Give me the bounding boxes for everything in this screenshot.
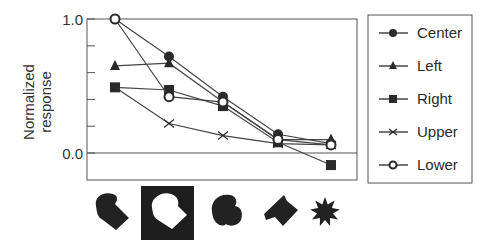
legend-label: Upper <box>417 123 458 140</box>
legend-label: Lower <box>417 156 458 173</box>
filled-circle-marker-icon <box>389 29 397 37</box>
filled-square-marker-icon <box>326 160 336 170</box>
filled-triangle-marker-icon <box>110 60 120 70</box>
open-circle-marker-icon <box>165 92 174 101</box>
wedge-shape-4-icon <box>264 195 298 226</box>
legend-label: Center <box>417 24 462 41</box>
open-circle-marker-icon <box>327 140 336 149</box>
open-circle-marker-icon <box>274 135 283 144</box>
x-marker-icon <box>164 120 174 128</box>
blob-shape-2-highlighted-icon <box>141 186 194 240</box>
y-tick-label-0: 0.0 <box>62 145 83 162</box>
legend-label: Right <box>417 90 453 107</box>
filled-square-marker-icon <box>389 95 397 103</box>
y-ticks <box>87 19 95 153</box>
blob-shape-1-icon <box>96 193 129 230</box>
series-layer <box>110 14 336 170</box>
legend: CenterLeftRightUpperLower <box>368 15 472 183</box>
y-tick-label-1: 1.0 <box>62 11 83 28</box>
open-circle-marker-icon <box>390 162 397 169</box>
open-circle-marker-icon <box>219 98 228 107</box>
y-axis-title-line2: response <box>37 71 54 133</box>
series-lower <box>111 15 336 150</box>
open-circle-marker-icon <box>111 15 120 24</box>
blob-shape-3-icon <box>212 195 242 226</box>
chart: Normalized response 1.0 0.0 CenterLeftRi… <box>0 0 486 245</box>
star-shape-5-icon <box>310 197 340 226</box>
stimulus-icons <box>96 186 340 240</box>
series-center <box>110 14 336 149</box>
legend-label: Left <box>417 57 443 74</box>
y-axis-title: Normalized response <box>20 64 54 140</box>
y-axis-title-line1: Normalized <box>20 64 37 140</box>
